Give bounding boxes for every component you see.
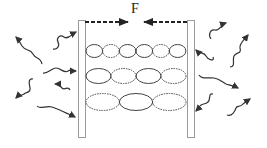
right-plate — [188, 21, 195, 138]
outside-fluctuations-left — [16, 32, 76, 117]
wavy-arrow-icon — [53, 32, 76, 49]
wavy-arrow-icon — [37, 106, 75, 117]
wavy-arrow-icon — [199, 75, 238, 88]
wavy-arrow-icon — [196, 94, 213, 111]
casimir-diagram — [0, 0, 267, 148]
force-label: F — [131, 1, 139, 17]
wavy-arrow-icon — [230, 35, 248, 67]
wavy-arrow-icon — [196, 50, 213, 60]
left-plate — [79, 21, 86, 138]
mode-row-1 — [86, 45, 186, 58]
mode-row-3 — [86, 94, 186, 111]
wavy-arrow-icon — [227, 99, 250, 115]
outside-fluctuations-right — [196, 23, 250, 115]
wavy-arrow-icon — [16, 79, 33, 98]
wavy-arrow-icon — [55, 84, 70, 90]
wavy-arrow-icon — [210, 23, 226, 39]
wavy-arrow-icon — [16, 37, 42, 64]
mode-row-2 — [86, 69, 186, 84]
wavy-arrow-icon — [43, 68, 76, 73]
